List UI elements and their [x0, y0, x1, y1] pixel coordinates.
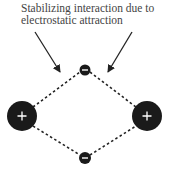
arrow-left-icon: [35, 32, 60, 72]
bond-left-bottom: [33, 126, 80, 155]
cation-right: [132, 101, 162, 131]
electrostatic-bonds: [33, 72, 136, 155]
anion-top: [80, 65, 91, 76]
anion-bottom: [79, 152, 91, 164]
bond-top-right: [90, 72, 136, 107]
cation-left: [7, 101, 37, 131]
ion-interaction-diagram: [0, 0, 171, 174]
bond-left-top: [33, 72, 80, 107]
arrow-right-icon: [108, 32, 132, 72]
bond-bottom-right: [90, 126, 136, 155]
